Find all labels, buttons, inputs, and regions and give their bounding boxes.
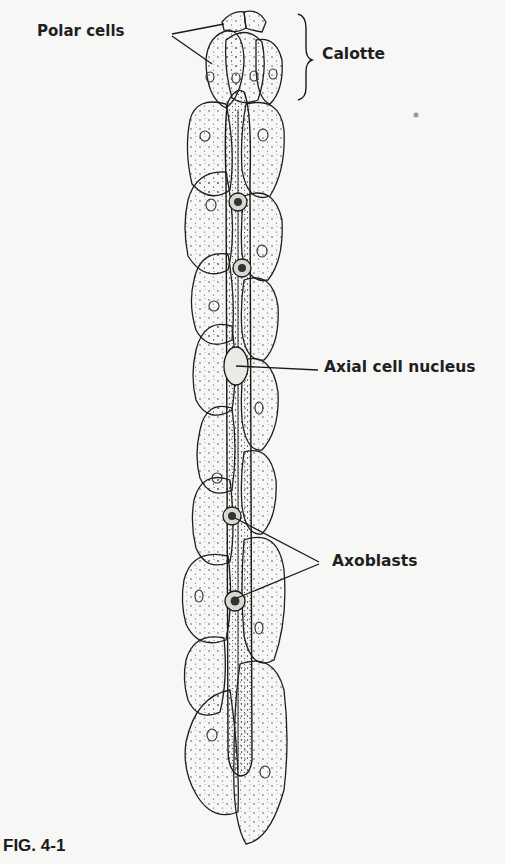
polar-cell-left [222,12,246,32]
stray-mark [414,113,419,118]
polar-cell-right [244,11,266,32]
label-calotte: Calotte [322,45,385,63]
organism-illustration [0,0,505,864]
leader-polar-2 [172,36,212,64]
calotte-brace [298,14,312,100]
leader-polar-1 [172,24,224,34]
figure-page: Polar cells Calotte Axial cell nucleus A… [0,0,505,864]
label-polar-cells: Polar cells [37,22,124,40]
label-axial-cell-nucleus: Axial cell nucleus [324,358,476,376]
label-axoblasts: Axoblasts [332,552,417,570]
somatic-cell [182,554,230,642]
figure-caption: FIG. 4-1 [3,836,65,856]
